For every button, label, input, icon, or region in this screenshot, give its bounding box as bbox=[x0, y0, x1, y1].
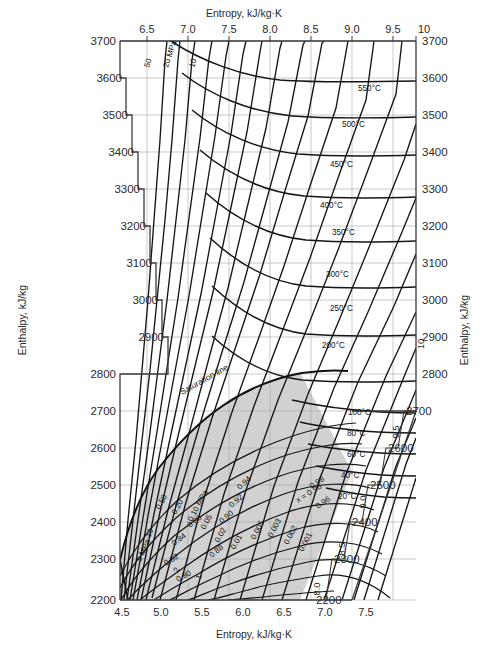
right-axis-title: Enthalpy, kJ/kg bbox=[458, 295, 470, 366]
isotherm-400C: 400°C bbox=[320, 201, 343, 210]
top-axis-title: Entropy, kJ/kg·K bbox=[206, 7, 282, 19]
bottom-tick-6.0: 6.0 bbox=[235, 606, 250, 618]
right-enth-2200: 2200 bbox=[316, 594, 342, 606]
left-enth-3300: 3300 bbox=[114, 183, 140, 195]
isotherm-200C: 200°C bbox=[322, 341, 345, 350]
right-enth-2500: 2500 bbox=[370, 479, 396, 491]
left-enth-2700: 2700 bbox=[90, 405, 116, 417]
isotherm-450C: 450°C bbox=[330, 160, 353, 169]
right-entropy-9.5: 9.5 bbox=[390, 425, 401, 438]
left-enth-2600: 2600 bbox=[90, 442, 116, 454]
left-enth-2200: 2200 bbox=[90, 594, 116, 606]
bottom-axis-title: Entropy, kJ/kg·K bbox=[216, 628, 292, 640]
bottom-tick-7.0: 7.0 bbox=[317, 606, 332, 618]
isotherm-80C: 80°C bbox=[347, 429, 365, 438]
top-tick-7.5: 7.5 bbox=[221, 23, 236, 35]
top-tick-6.5: 6.5 bbox=[139, 23, 154, 35]
isotherm-20C: 20°C bbox=[338, 492, 356, 501]
right-enth-2900: 2900 bbox=[422, 331, 448, 343]
left-enth-2800: 2800 bbox=[90, 368, 116, 380]
right-enth-3100: 3100 bbox=[422, 257, 448, 269]
left-axis-title: Enthalpy, kJ/kg bbox=[16, 285, 28, 356]
bottom-tick-4.5: 4.5 bbox=[114, 606, 129, 618]
isotherm-40C: 40°C bbox=[341, 471, 359, 480]
right-enth-3700: 3700 bbox=[422, 35, 448, 47]
isotherm-500C: 500°C bbox=[342, 120, 365, 129]
isotherm-350C: 350°C bbox=[332, 228, 355, 237]
left-enth-3100: 3100 bbox=[126, 257, 152, 269]
chart-svg: Entropy, kJ/kg·K Entropy, kJ/kg·K Enthal… bbox=[0, 0, 488, 649]
left-enth-2900: 2900 bbox=[138, 331, 164, 343]
right-enth-3600: 3600 bbox=[422, 72, 448, 84]
left-enth-2500: 2500 bbox=[90, 479, 116, 491]
left-enth-3400: 3400 bbox=[108, 146, 134, 158]
right-enth-2800: 2800 bbox=[422, 368, 448, 380]
bottom-tick-5.5: 5.5 bbox=[194, 606, 209, 618]
left-enth-3600: 3600 bbox=[96, 72, 122, 84]
left-enth-3200: 3200 bbox=[120, 220, 146, 232]
top-tick-9.5: 9.5 bbox=[385, 23, 400, 35]
right-enth-3000: 3000 bbox=[422, 294, 448, 306]
left-enth-2400: 2400 bbox=[90, 516, 116, 528]
right-enth-3300: 3300 bbox=[422, 183, 448, 195]
bottom-tick-7.5: 7.5 bbox=[358, 606, 373, 618]
right-enth-3400: 3400 bbox=[422, 146, 448, 158]
left-enth-2300: 2300 bbox=[90, 553, 116, 565]
left-enth-3500: 3500 bbox=[102, 109, 128, 121]
top-tick-7.0: 7.0 bbox=[180, 23, 195, 35]
right-enth-2700: 2700 bbox=[406, 405, 432, 417]
right-enth-2400: 2400 bbox=[352, 516, 378, 528]
isotherm-100C: 100°C bbox=[348, 408, 371, 417]
right-entropy-9.0: 9.0 bbox=[357, 495, 368, 508]
isotherm-60C: 60°C bbox=[347, 450, 365, 459]
top-tick-10: 10 bbox=[418, 23, 430, 35]
top-tick-9.0: 9.0 bbox=[344, 23, 359, 35]
right-enth-3500: 3500 bbox=[422, 109, 448, 121]
isotherm-550C: 550°C bbox=[358, 84, 381, 93]
mollier-chart: Entropy, kJ/kg·K Entropy, kJ/kg·K Enthal… bbox=[0, 0, 488, 649]
right-enth-3200: 3200 bbox=[422, 220, 448, 232]
bottom-tick-6.5: 6.5 bbox=[276, 606, 291, 618]
left-enth-3000: 3000 bbox=[132, 294, 158, 306]
top-tick-8.5: 8.5 bbox=[303, 23, 318, 35]
top-tick-8.0: 8.0 bbox=[262, 23, 277, 35]
isotherm-250C: 250°C bbox=[330, 304, 353, 313]
right-enth-2600: 2600 bbox=[388, 442, 414, 454]
isotherm-300C: 300°C bbox=[326, 270, 349, 279]
left-enth-3700: 3700 bbox=[90, 35, 116, 47]
right-enth-2300: 2300 bbox=[334, 553, 360, 565]
bottom-tick-5.0: 5.0 bbox=[153, 606, 168, 618]
